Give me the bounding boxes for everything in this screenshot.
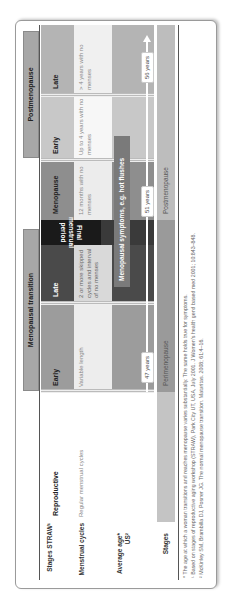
stage-bar-reproductive [157, 392, 175, 522]
final-menstrual-period-label: Final menstrual period [59, 217, 83, 248]
column-reproductive [41, 392, 154, 472]
row-label-average-age: Average age* US² [116, 533, 132, 578]
menopause-stages-table-rotated: Menopausal transition Postmenopause Fina… [0, 0, 231, 601]
row-label-menstrual-cycles: Menstrual cycles [78, 523, 86, 578]
final-menstrual-period-marker: Final menstrual period [41, 220, 101, 245]
row-label-stages: Stages [162, 533, 170, 578]
stage-bar-perimenopause: Perimenopause [157, 220, 175, 392]
group-header-menopausal-transition: Menopausal transition [23, 229, 39, 391]
header-mt-late: Late [41, 283, 71, 303]
cycles-pm-late: > 4 years with no menses [74, 25, 93, 95]
group-header-postmenopause: Postmenopause [23, 31, 39, 158]
table-bottom-rule [178, 25, 179, 580]
age-marker-47: 47 years [141, 352, 154, 383]
header-reproductive: Reproductive [41, 471, 71, 522]
footnote-mckinley: ² McKinley SM, Brambilla DJ, Posner JG. … [198, 338, 205, 578]
cycles-menopause: 12 months with no menses [74, 160, 93, 220]
row-label-stages-straw: Stages STRAW¹ [46, 523, 54, 578]
arrow-right-icon [143, 35, 151, 42]
cycles-reproductive: Regular menstrual cycles [74, 392, 86, 522]
header-pm-late: Late [41, 75, 71, 95]
cycles-mt-early: Variable length [74, 303, 86, 392]
header-pm-early: Early [41, 137, 71, 160]
table-card: Menopausal transition Postmenopause Fina… [15, 20, 217, 589]
cycles-pm-early: Up to 4 years with no menses [74, 95, 93, 160]
age-marker-51: 51 years [141, 186, 154, 217]
table-top-rule [39, 25, 40, 580]
footnote-age: * The age at which a woman transitions a… [182, 294, 189, 578]
footnote-straw: ¹ Based on stages of reproductive aging … [190, 233, 197, 578]
header-menopause: Menopause [41, 175, 71, 220]
age-marker-56: 56 years [141, 52, 154, 83]
header-mt-early: Early [41, 369, 71, 392]
cycles-mt-late: 2 or more skipped cycles and interval of… [74, 245, 101, 303]
stage-bar-postmenopause: Postmenopause [157, 25, 175, 220]
symptoms-bar: Menopausal symptoms, e.g. hot flushes [114, 136, 130, 287]
